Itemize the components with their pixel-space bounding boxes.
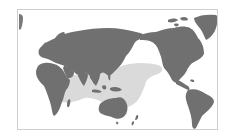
new-zealand-landmass	[132, 115, 139, 125]
map-frame: Shaded distribution area covering the In…	[17, 9, 218, 130]
world-map	[18, 10, 218, 130]
central-america-landmass	[176, 80, 190, 90]
arctic-islands	[168, 17, 188, 26]
tasmania-landmass	[116, 122, 118, 125]
caribbean-islands	[190, 80, 194, 82]
south-america-landmass	[186, 89, 214, 129]
greenland-west-edge	[19, 14, 23, 30]
greenland-landmass	[194, 15, 218, 40]
